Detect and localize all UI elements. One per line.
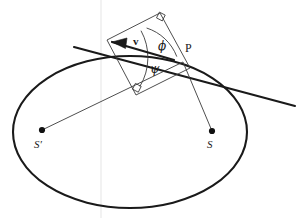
- orbit-diagram-figure: P S S′ v ϕ ψ: [0, 0, 305, 218]
- angle-arc-psi: [140, 31, 148, 87]
- point-p-label: P: [185, 42, 192, 54]
- focus-s-label: S: [207, 139, 213, 150]
- tangent-line: [74, 47, 295, 106]
- velocity-decomposition-rectangle: [107, 13, 190, 95]
- diagram-canvas: [0, 0, 305, 218]
- radius-vector-to-S-prime: [42, 62, 183, 130]
- focus-s-prime-label: S′: [34, 139, 42, 150]
- angle-phi-label: ϕ: [158, 40, 166, 52]
- focus-point-S: [209, 128, 215, 134]
- radius-vector-to-S: [183, 62, 212, 131]
- angle-psi-label: ψ: [150, 63, 159, 75]
- focus-point-S-prime: [39, 127, 45, 133]
- velocity-vector-label: v: [133, 36, 139, 47]
